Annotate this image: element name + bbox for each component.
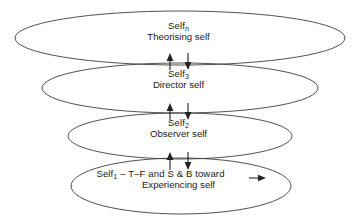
label-self-1-qualifier: – T–F and S & B toward (117, 168, 224, 179)
label-self-3-descriptor: Director self (0, 79, 357, 90)
diagram-canvas: Selfn Theorising self Self3 Director sel… (0, 0, 357, 222)
label-self-1-name: Self1 – T–F and S & B toward (0, 168, 357, 179)
label-self-1-subscript: 1 (113, 173, 117, 181)
label-self-2-name: Self2 (0, 117, 357, 128)
arrow-up-head (167, 53, 174, 61)
label-self-2-descriptor: Observer self (0, 128, 357, 139)
label-self-n: Selfn Theorising self (0, 20, 357, 43)
label-self-n-subscript: n (185, 25, 189, 33)
label-self-2: Self2 Observer self (0, 117, 357, 140)
label-self-1-descriptor: Experiencing self (0, 179, 357, 190)
arrow-up-head (167, 103, 174, 111)
label-self-3-name: Self3 (0, 68, 357, 79)
label-self-3-subscript: 3 (185, 73, 189, 81)
label-self-n-descriptor: Theorising self (0, 31, 357, 42)
label-self-3: Self3 Director self (0, 68, 357, 91)
arrow-up-head (167, 152, 174, 160)
label-self-n-name: Selfn (0, 20, 357, 31)
label-self-1: Self1 – T–F and S & B toward Experiencin… (0, 168, 357, 191)
label-self-2-subscript: 2 (185, 122, 189, 130)
